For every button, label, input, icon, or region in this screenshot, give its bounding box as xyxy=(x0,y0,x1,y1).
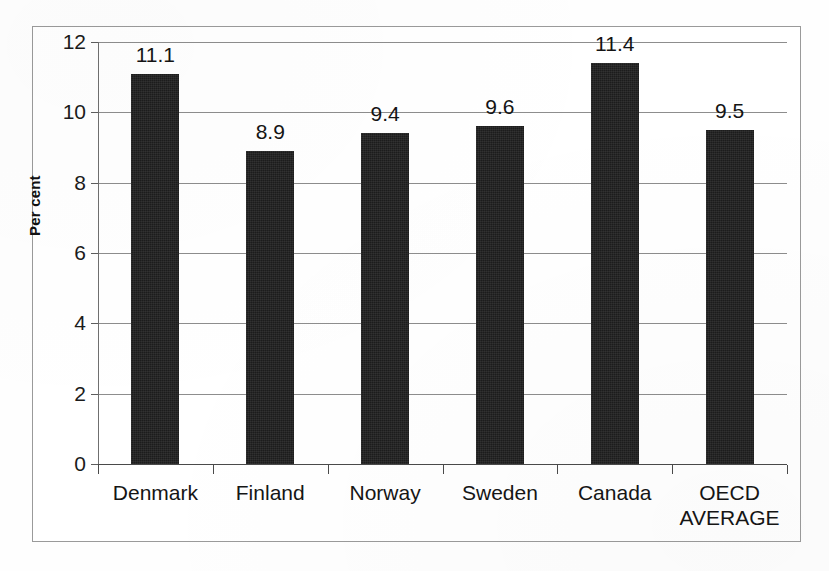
bar-value-label: 9.5 xyxy=(685,100,775,121)
x-tick-mark-origin xyxy=(98,465,99,474)
x-axis-label: Denmark xyxy=(98,481,213,506)
bar-value-label: 9.4 xyxy=(340,103,430,124)
chart-screenshot: Per cent 02468101211.1Denmark8.9Finland9… xyxy=(0,0,829,571)
bar xyxy=(131,74,179,464)
x-axis-label: Sweden xyxy=(443,481,558,506)
x-tick-mark xyxy=(328,465,329,474)
y-tick-label: 2 xyxy=(48,383,86,404)
bar xyxy=(246,151,294,464)
y-tick-mark xyxy=(91,323,98,324)
bar-value-label: 8.9 xyxy=(225,121,315,142)
y-tick-mark xyxy=(91,464,98,465)
bar-value-label: 9.6 xyxy=(455,96,545,117)
gridline-12 xyxy=(98,42,787,43)
bar xyxy=(361,133,409,464)
y-axis-title: Per cent xyxy=(26,175,43,236)
x-axis-label: Canada xyxy=(557,481,672,506)
x-tick-mark xyxy=(443,465,444,474)
gridline-8 xyxy=(98,183,787,184)
bar xyxy=(591,63,639,464)
y-axis-line xyxy=(98,42,99,464)
x-axis-label: Finland xyxy=(213,481,328,506)
bar-value-label: 11.1 xyxy=(110,44,200,65)
x-tick-mark xyxy=(672,465,673,474)
y-tick-label: 6 xyxy=(48,242,86,263)
x-tick-mark xyxy=(787,465,788,474)
y-tick-label: 0 xyxy=(48,453,86,474)
y-tick-label: 8 xyxy=(48,172,86,193)
x-tick-mark xyxy=(213,465,214,474)
x-axis-label: Norway xyxy=(328,481,443,506)
gridline-4 xyxy=(98,323,787,324)
y-tick-label: 4 xyxy=(48,312,86,333)
y-tick-mark xyxy=(91,253,98,254)
gridline-2 xyxy=(98,394,787,395)
x-tick-mark xyxy=(557,465,558,474)
x-axis-label: OECD AVERAGE xyxy=(672,481,787,531)
y-tick-label: 10 xyxy=(48,101,86,122)
y-tick-mark xyxy=(91,183,98,184)
y-tick-mark xyxy=(91,112,98,113)
bar xyxy=(476,126,524,464)
y-tick-mark xyxy=(91,42,98,43)
y-tick-mark xyxy=(91,394,98,395)
y-tick-label: 12 xyxy=(48,31,86,52)
bar-value-label: 11.4 xyxy=(570,33,660,54)
gridline-6 xyxy=(98,253,787,254)
bar xyxy=(706,130,754,464)
